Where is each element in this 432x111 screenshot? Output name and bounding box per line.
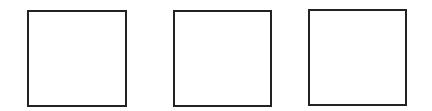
square-3 <box>308 9 407 106</box>
square-2 <box>173 10 272 107</box>
square-1 <box>27 10 127 107</box>
diagram-canvas <box>0 0 432 111</box>
